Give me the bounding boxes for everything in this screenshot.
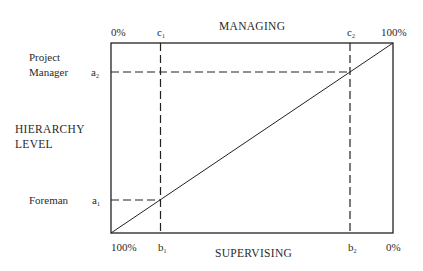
- project-manager-label-line2: Manager: [29, 67, 68, 78]
- foreman-label: Foreman: [29, 195, 68, 206]
- marker-a1: a1: [92, 195, 100, 207]
- project-manager-label-line1: Project: [29, 52, 60, 63]
- top-right-percent: 100%: [381, 27, 407, 38]
- marker-c1: c1: [157, 27, 165, 39]
- hierarchy-level-title-line1: HIERARCHY: [15, 124, 85, 136]
- marker-b2: b2: [348, 242, 357, 254]
- diagram-canvas: [0, 0, 423, 271]
- hierarchy-level-title-line2: LEVEL: [15, 139, 53, 151]
- bottom-right-percent: 0%: [386, 242, 401, 253]
- marker-a2: a2: [91, 67, 99, 79]
- managing-axis-title: MANAGING: [219, 21, 285, 33]
- bottom-left-percent: 100%: [111, 242, 137, 253]
- supervising-axis-title: SUPERVISING: [215, 248, 292, 260]
- top-left-percent: 0%: [111, 27, 126, 38]
- marker-c2: c2: [347, 27, 355, 39]
- marker-b1: b1: [158, 242, 167, 254]
